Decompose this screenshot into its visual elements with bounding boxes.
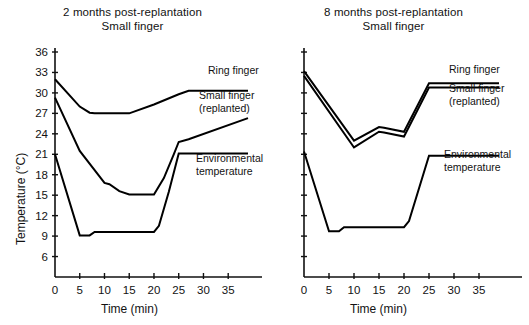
x-tick-label: 25 (423, 284, 436, 296)
y-tick-label: 24 (35, 128, 48, 140)
series-label-ring-finger-left: Ring finger (208, 64, 259, 77)
x-tick-label: 35 (222, 284, 235, 296)
x-axis-label-right: Time (min) (350, 302, 407, 316)
y-tick-label: 36 (35, 46, 48, 58)
x-tick-label: 20 (398, 284, 411, 296)
series-label-small-finger-right-line1: Small finger (449, 82, 504, 95)
series-label-environmental-right-line1: Environmental (444, 148, 511, 161)
x-tick-label: 15 (123, 284, 136, 296)
y-tick-label: 27 (35, 107, 48, 119)
series-label-environmental-left-line2: temperature (196, 165, 253, 178)
x-tick-label: 10 (348, 284, 361, 296)
x-tick-label: 5 (326, 284, 332, 296)
y-tick-label: 30 (35, 87, 48, 99)
chart-panel-right: 8 months post-replantation Small finger … (264, 0, 529, 325)
x-tick-label: 30 (197, 284, 210, 296)
x-axis-label-left: Time (min) (101, 302, 158, 316)
x-tick-label: 15 (373, 284, 386, 296)
series-label-small-finger-left-line1: Small finger (199, 89, 254, 102)
y-tick-label: 15 (35, 189, 48, 201)
y-tick-label: 12 (35, 210, 48, 222)
chart-panel-left: 2 months post-replantation Small finger … (0, 0, 265, 325)
y-tick-label: 33 (35, 66, 48, 78)
x-tick-label: 5 (77, 284, 83, 296)
x-tick-label: 10 (98, 284, 111, 296)
x-tick-label: 0 (301, 284, 307, 296)
x-tick-label: 35 (473, 284, 486, 296)
y-tick-label: 6 (42, 251, 48, 263)
figure-root: 2 months post-replantation Small finger … (0, 0, 529, 325)
x-tick-label: 20 (148, 284, 161, 296)
x-tick-label: 0 (52, 284, 58, 296)
y-tick-label: 9 (42, 230, 48, 242)
series-label-small-finger-right-line2: (replanted) (449, 95, 500, 108)
series-label-ring-finger-right: Ring finger (449, 63, 500, 76)
y-tick-label: 21 (35, 148, 48, 160)
series-label-environmental-right-line2: temperature (444, 161, 501, 174)
x-tick-label: 30 (448, 284, 461, 296)
series-label-small-finger-left-line2: (replanted) (199, 102, 250, 115)
y-tick-label: 18 (35, 169, 48, 181)
x-tick-label: 25 (172, 284, 185, 296)
series-label-environmental-left-line1: Environmental (196, 152, 263, 165)
